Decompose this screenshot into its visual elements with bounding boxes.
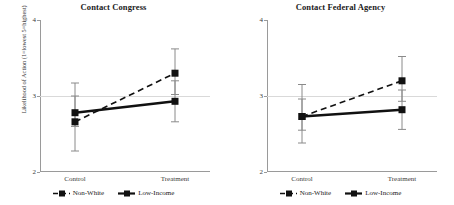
marker-non-white-treatment	[172, 70, 179, 77]
marker-non-white-control	[72, 118, 79, 125]
panel-contact-federal-agency: Contact Federal Agency 4 3 2 Control Tre…	[227, 0, 454, 205]
marker-low-income-control	[299, 113, 306, 120]
marker-non-white-treatment	[399, 77, 406, 84]
legend-label-low-income: Low-Income	[365, 189, 401, 197]
series-line-low-income	[75, 101, 175, 112]
marker-low-income-treatment	[399, 106, 406, 113]
series-layer	[0, 0, 227, 205]
legend: Non-White Low-Income	[227, 189, 454, 197]
panel-contact-congress: Contact Congress 4 3 2 Likelihood of Act…	[0, 0, 227, 205]
marker-low-income-treatment	[172, 98, 179, 105]
interaction-plot-figure: Contact Congress 4 3 2 Likelihood of Act…	[0, 0, 454, 205]
series-line-non-white	[75, 73, 175, 122]
series-line-low-income	[302, 110, 402, 117]
marker-low-income-control	[72, 109, 79, 116]
legend-label-non-white: Non-White	[73, 189, 105, 197]
legend-item-low-income[interactable]: Low-Income	[118, 189, 174, 197]
legend-swatch-solid-icon	[345, 190, 362, 197]
legend-swatch-dashed-icon	[53, 190, 70, 197]
legend-item-low-income[interactable]: Low-Income	[345, 189, 401, 197]
legend-label-low-income: Low-Income	[138, 189, 174, 197]
legend-label-non-white: Non-White	[300, 189, 332, 197]
legend-swatch-dashed-icon	[280, 190, 297, 197]
legend: Non-White Low-Income	[0, 189, 227, 197]
legend-item-non-white[interactable]: Non-White	[53, 189, 105, 197]
legend-swatch-solid-icon	[118, 190, 135, 197]
series-layer	[227, 0, 454, 205]
legend-item-non-white[interactable]: Non-White	[280, 189, 332, 197]
